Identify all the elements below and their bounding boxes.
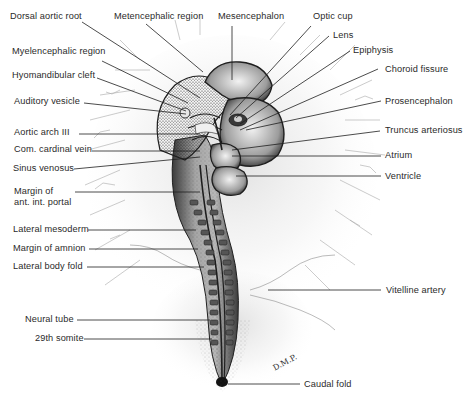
label-vitelline-artery: Vitelline artery (386, 285, 446, 296)
label-caudal-fold: Caudal fold (304, 379, 352, 390)
label-hyomandibular-cleft: Hyomandibular cleft (12, 70, 95, 81)
label-optic-cup: Optic cup (313, 11, 353, 22)
label-myelencephalic-region: Myelencephalic region (12, 46, 106, 57)
label-mesencephalon: Mesencephalon (218, 11, 284, 22)
label-aortic-arch-iii: Aortic arch III (14, 127, 70, 138)
label-atrium: Atrium (385, 150, 412, 161)
label-choroid-fissure: Choroid fissure (385, 64, 448, 75)
label-auditory-vesicle: Auditory vesicle (14, 96, 80, 107)
label-epiphysis: Epiphysis (353, 45, 393, 56)
embryo-diagram: Dorsal aortic root Myelencephalic region… (0, 0, 468, 399)
label-margin-of-amnion: Margin of amnion (13, 243, 86, 254)
label-lateral-body-fold: Lateral body fold (13, 261, 83, 272)
label-sinus-venosus: Sinus venosus (13, 163, 74, 174)
label-dorsal-aortic-root: Dorsal aortic root (10, 11, 82, 22)
label-29th-somite: 29th somite (35, 333, 84, 344)
label-metencephalic-region: Metencephalic region (114, 11, 203, 22)
label-lateral-mesoderm: Lateral mesoderm (13, 224, 89, 235)
label-margin-ant-int-portal: Margin of ant. int. portal (14, 186, 71, 208)
label-com-cardinal-vein: Com. cardinal vein (14, 144, 92, 155)
label-neural-tube: Neural tube (25, 314, 74, 325)
label-lens: Lens (333, 30, 353, 41)
label-truncus-arteriosus: Truncus arteriosus (385, 125, 463, 136)
label-prosencephalon: Prosencephalon (385, 96, 453, 107)
label-ventricle: Ventricle (385, 171, 421, 182)
